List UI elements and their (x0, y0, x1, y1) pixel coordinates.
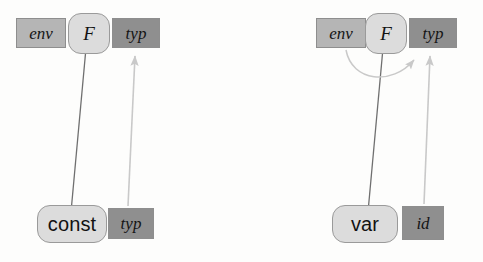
edge-const-typ-to-typ (128, 56, 135, 206)
const-top-env-label: env (29, 25, 53, 42)
const-bottom-typ-label: typ (121, 215, 142, 232)
var-top-env-label: env (329, 25, 353, 42)
diagram-canvas: F.typ (dashed/light, arrowhead up) --> e… (0, 0, 483, 262)
const-top-env-attribute[interactable]: env (16, 18, 66, 48)
const-bottom-symbol-label: const (48, 214, 96, 234)
edge-var-env-to-typ (346, 50, 414, 77)
const-bottom-typ-attribute[interactable]: typ (108, 208, 154, 239)
const-bottom-symbol-node[interactable]: const (37, 205, 107, 243)
edge-const-symbol-link (71, 48, 86, 212)
const-top-typ-label: typ (126, 25, 147, 42)
var-bottom-id-label: id (416, 215, 429, 232)
var-top-symbol-node[interactable]: F (365, 13, 407, 54)
edge-var-symbol-link (368, 48, 383, 212)
var-top-symbol-label: F (380, 24, 392, 43)
const-top-symbol-label: F (83, 24, 95, 43)
var-top-env-attribute[interactable]: env (316, 18, 366, 48)
var-top-typ-label: typ (423, 25, 444, 42)
var-top-typ-attribute[interactable]: typ (409, 18, 457, 48)
const-top-typ-attribute[interactable]: typ (112, 18, 160, 48)
const-top-symbol-node[interactable]: F (68, 13, 110, 54)
edge-var-id-to-typ (424, 56, 430, 204)
var-bottom-symbol-label: var (351, 214, 379, 234)
var-bottom-id-attribute[interactable]: id (402, 206, 444, 240)
var-bottom-symbol-node[interactable]: var (332, 205, 398, 243)
